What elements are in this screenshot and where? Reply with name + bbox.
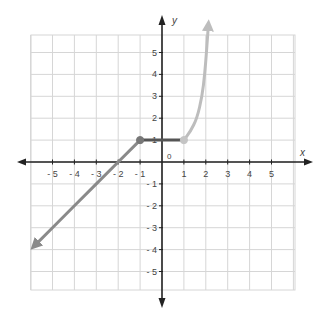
y-tick-label: 3 bbox=[152, 91, 157, 101]
x-tick-label: - 2 bbox=[113, 169, 124, 179]
x-tick-label: 1 bbox=[181, 169, 186, 179]
x-tick-label: 3 bbox=[225, 169, 230, 179]
point-marker bbox=[180, 137, 187, 144]
x-tick-label: 5 bbox=[269, 169, 274, 179]
point-marker bbox=[137, 137, 144, 144]
x-axis-right-arrow-icon bbox=[304, 159, 313, 166]
x-tick-label: - 3 bbox=[91, 169, 102, 179]
y-tick-label: - 2 bbox=[146, 201, 157, 211]
left-ray-line bbox=[34, 140, 140, 246]
y-tick-label: - 4 bbox=[146, 245, 157, 255]
y-tick-label: - 5 bbox=[146, 267, 157, 277]
y-tick-label: 4 bbox=[152, 69, 157, 79]
piecewise-function-graph: yx0- 5- 4- 3- 2- 11234554321- 1- 2- 3- 4… bbox=[0, 0, 325, 319]
x-tick-label: - 1 bbox=[135, 169, 146, 179]
y-axis-down-arrow-icon bbox=[159, 298, 166, 308]
x-tick-label: - 5 bbox=[47, 169, 58, 179]
x-axis-left-arrow-icon bbox=[17, 159, 26, 166]
y-axis-label: y bbox=[171, 15, 178, 26]
y-tick-label: 2 bbox=[152, 113, 157, 123]
origin-label: 0 bbox=[167, 152, 172, 161]
axes bbox=[17, 15, 313, 308]
tick-labels: yx0- 5- 4- 3- 2- 11234554321- 1- 2- 3- 4… bbox=[47, 15, 306, 277]
series bbox=[34, 24, 209, 246]
y-axis-up-arrow-icon bbox=[159, 15, 166, 25]
y-tick-label: - 3 bbox=[146, 223, 157, 233]
x-axis-label: x bbox=[299, 147, 306, 158]
x-tick-label: - 4 bbox=[69, 169, 80, 179]
y-tick-label: - 1 bbox=[146, 179, 157, 189]
x-tick-label: 2 bbox=[203, 169, 208, 179]
y-tick-label: 5 bbox=[152, 48, 157, 58]
right-curve-line bbox=[184, 24, 209, 140]
x-tick-label: 4 bbox=[247, 169, 252, 179]
